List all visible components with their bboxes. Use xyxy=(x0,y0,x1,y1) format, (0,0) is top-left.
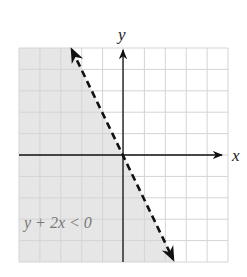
x-axis-label: x xyxy=(231,146,240,165)
inequality-graph: y x y + 2x < 0 xyxy=(0,0,247,277)
y-axis-label: y xyxy=(116,25,126,44)
inequality-label: y + 2x < 0 xyxy=(22,214,92,232)
